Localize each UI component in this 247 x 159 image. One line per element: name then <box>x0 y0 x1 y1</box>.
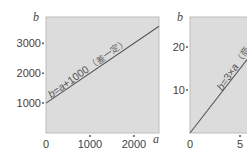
y-tick-label: 2000 <box>17 67 41 79</box>
figure: 100020003000 010002000 b a b=a+1000（差一定）… <box>0 0 247 159</box>
plot-area-left <box>46 17 159 133</box>
y-tick-label: 10 <box>173 84 185 96</box>
y-tick-label: 1000 <box>17 97 41 109</box>
plot-area-right <box>190 17 247 133</box>
chart-left: 100020003000 010002000 b a b=a+1000（差一定） <box>17 10 159 150</box>
y-tick-mark <box>42 42 44 44</box>
y-tick-label: 3000 <box>17 37 41 49</box>
y-axis-label-right: b <box>177 10 183 24</box>
y-tick-label: 20 <box>173 41 185 53</box>
y-tick-mark <box>186 89 188 91</box>
x-tick-label: 0 <box>187 138 193 150</box>
x-tick-mark <box>239 135 241 137</box>
x-tick-mark <box>133 135 135 137</box>
y-axis-label-left: b <box>33 10 39 24</box>
y-tick-mark <box>42 72 44 74</box>
x-tick-label: 5 <box>237 138 243 150</box>
x-tick-label: 1000 <box>78 138 102 150</box>
x-tick-mark <box>89 135 91 137</box>
chart-right: 1020 05 b b=3×a（商一定） <box>173 10 247 150</box>
x-tick-label: 2000 <box>122 138 146 150</box>
x-tick-label: 0 <box>43 138 49 150</box>
y-tick-mark <box>186 46 188 48</box>
x-axis-label-left: a <box>153 132 159 146</box>
y-tick-mark <box>42 102 44 104</box>
